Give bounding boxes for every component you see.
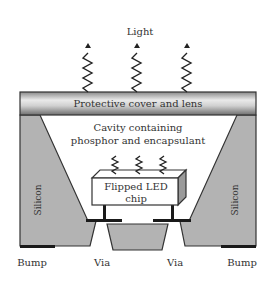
chip-label-line1: Flipped LED [104, 181, 168, 192]
silicon-right-label: Silicon [230, 184, 240, 215]
silicon-center-block [107, 224, 168, 250]
bump-right [221, 245, 256, 248]
via-left-label: Via [93, 257, 110, 268]
cavity-label-line1: Cavity containing [93, 122, 183, 133]
light-label: Light [127, 26, 154, 37]
bump-left [20, 245, 55, 248]
via-right-label: Via [166, 257, 183, 268]
light-wave-3 [182, 53, 191, 92]
light-wave-1 [83, 53, 92, 92]
bump-right-label: Bump [227, 257, 257, 268]
arrow-head-1 [85, 43, 91, 48]
led-package-diagram: Light Protective cover and lens Cavity c… [0, 0, 275, 282]
arrow-head-2 [134, 43, 140, 48]
arrow-head-3 [184, 43, 190, 48]
light-waves [83, 53, 191, 92]
chip-support-right [171, 205, 174, 220]
light-arrowheads [85, 43, 190, 48]
silicon-left-label: Silicon [33, 184, 43, 215]
bump-left-label: Bump [17, 257, 47, 268]
cavity-label-line2: phosphor and encapsulant [71, 135, 205, 146]
chip-label-line2: chip [125, 193, 147, 204]
chip-support-left [103, 205, 106, 220]
cover-label: Protective cover and lens [74, 98, 203, 109]
light-wave-2 [132, 53, 141, 92]
